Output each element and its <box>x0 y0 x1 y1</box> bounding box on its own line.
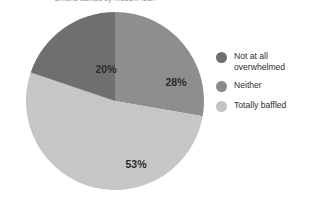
legend-item-label: Neither <box>234 80 262 91</box>
pie-slice-not-at-all-overwhelmed[interactable] <box>115 12 204 116</box>
chart-legend: Not at all overwhelmed Neither Totally b… <box>216 51 311 120</box>
pie-slice-value-neither: 20% <box>95 63 116 75</box>
legend-item-totally-baffled[interactable]: Totally baffled <box>216 100 311 112</box>
pie-slice-value-not-at-all-overwhelmed: 28% <box>165 76 186 88</box>
pie-svg <box>26 12 204 190</box>
pie-chart: 28% 53% 20% <box>26 12 204 190</box>
pie-slice-value-totally-baffled: 53% <box>125 158 146 170</box>
legend-swatch-icon <box>216 81 227 92</box>
legend-item-not-at-all-overwhelmed[interactable]: Not at all overwhelmed <box>216 51 311 72</box>
legend-item-neither[interactable]: Neither <box>216 80 311 92</box>
legend-swatch-icon <box>216 101 227 112</box>
chart-title: Britons baffled by modern tech <box>0 0 210 3</box>
legend-item-label: Totally baffled <box>234 100 286 111</box>
legend-swatch-icon <box>216 52 227 63</box>
pie-chart-figure: Britons baffled by modern tech 28% 53% 2… <box>0 0 311 208</box>
legend-item-label: Not at all overwhelmed <box>234 51 304 72</box>
